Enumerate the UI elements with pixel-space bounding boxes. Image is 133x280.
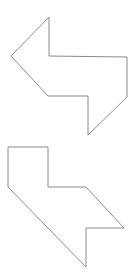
bottom-arrow-shape (8, 147, 124, 267)
shapes-svg (0, 0, 133, 280)
diagram-canvas (0, 0, 133, 280)
top-arrow-shape (11, 17, 127, 135)
